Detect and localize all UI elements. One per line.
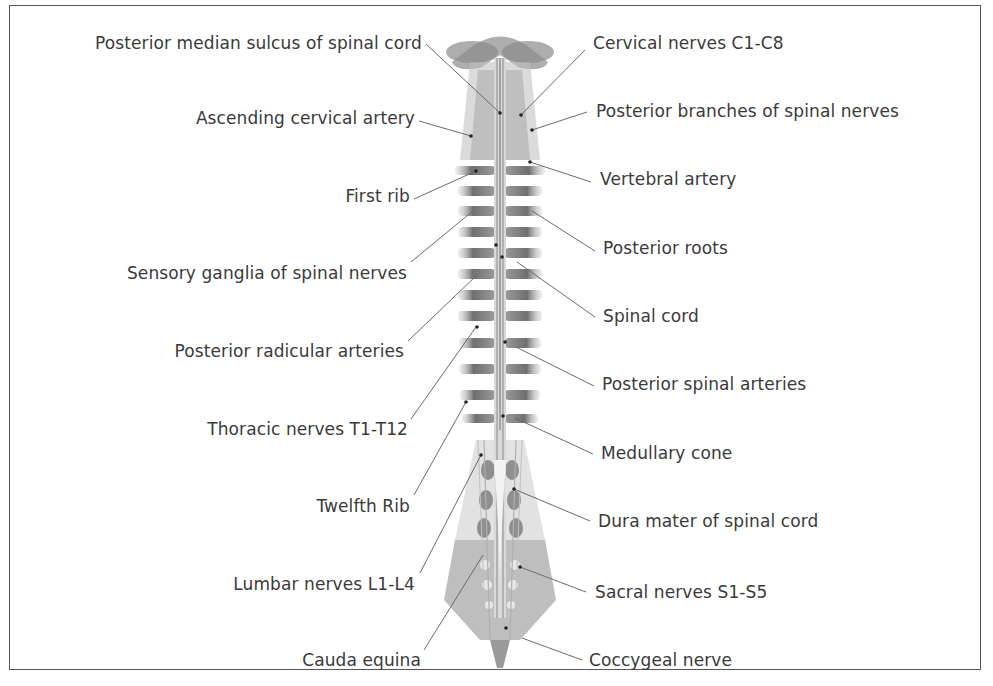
label-sacral-nerves: Sacral nerves S1-S5	[595, 582, 767, 602]
label-thoracic-nerves: Thoracic nerves T1-T12	[207, 419, 408, 439]
label-coccygeal-nerve: Coccygeal nerve	[589, 650, 732, 670]
label-posterior-median-sulcus: Posterior median sulcus of spinal cord	[95, 33, 422, 53]
label-posterior-branches: Posterior branches of spinal nerves	[596, 101, 899, 121]
label-dura-mater: Dura mater of spinal cord	[598, 511, 818, 531]
label-posterior-radicular-arteries: Posterior radicular arteries	[175, 341, 404, 361]
label-twelfth-rib: Twelfth Rib	[316, 496, 410, 516]
label-ascending-cervical-artery: Ascending cervical artery	[196, 108, 415, 128]
label-medullary-cone: Medullary cone	[601, 443, 732, 463]
label-posterior-roots: Posterior roots	[603, 238, 728, 258]
label-sensory-ganglia: Sensory ganglia of spinal nerves	[127, 263, 407, 283]
label-spinal-cord: Spinal cord	[603, 306, 699, 326]
label-posterior-spinal-arteries: Posterior spinal arteries	[602, 374, 806, 394]
label-cervical-nerves: Cervical nerves C1-C8	[593, 33, 784, 53]
label-first-rib: First rib	[345, 186, 410, 206]
label-lumbar-nerves: Lumbar nerves L1-L4	[233, 574, 415, 594]
label-vertebral-artery: Vertebral artery	[600, 169, 736, 189]
label-cauda-equina: Cauda equina	[302, 650, 421, 670]
